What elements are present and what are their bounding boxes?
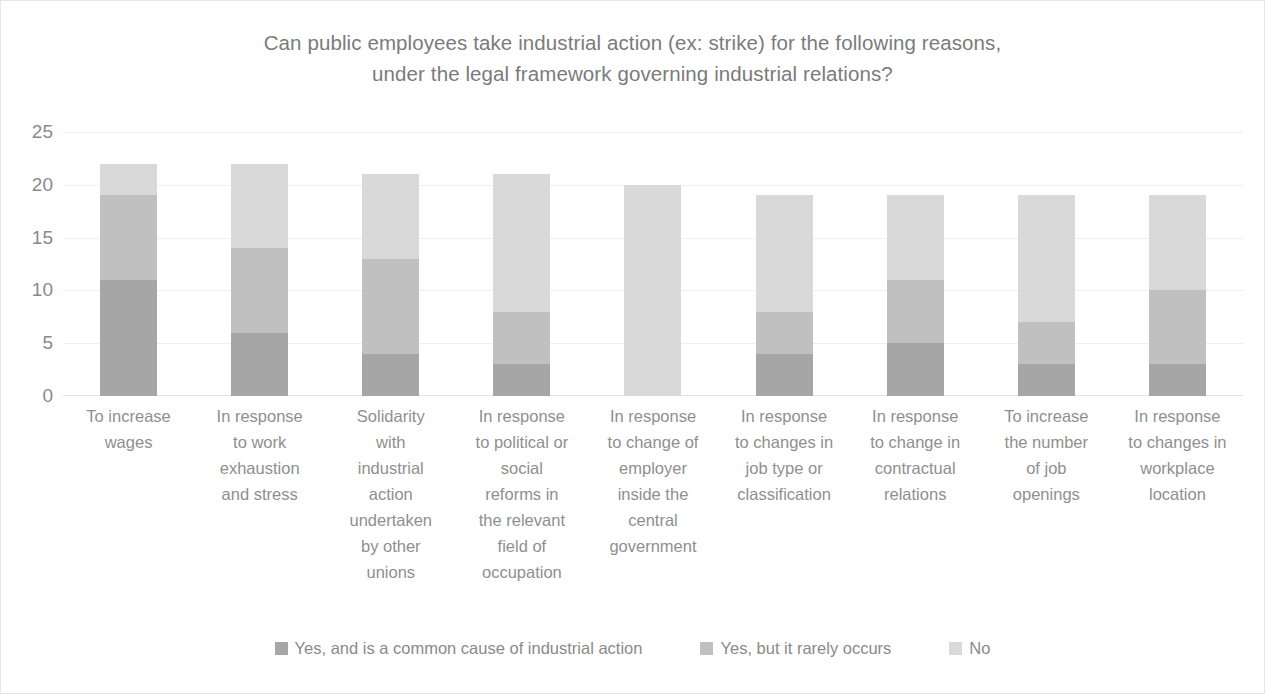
legend-label: No <box>969 639 990 657</box>
stacked-bar[interactable] <box>756 195 813 396</box>
bar-slot <box>194 132 325 396</box>
bar-segment[interactable] <box>493 174 550 311</box>
bar-segment[interactable] <box>1018 195 1075 322</box>
legend-label: Yes, and is a common cause of industrial… <box>295 639 643 657</box>
bar-slot <box>981 132 1112 396</box>
bar-segment[interactable] <box>1149 364 1206 396</box>
legend-label: Yes, but it rarely occurs <box>720 639 891 657</box>
bar-segment[interactable] <box>362 174 419 258</box>
x-axis-label: In response to change in contractual rel… <box>850 403 981 507</box>
bar-segment[interactable] <box>887 195 944 279</box>
bar-segment[interactable] <box>100 164 157 196</box>
bar-segment[interactable] <box>756 354 813 396</box>
bar-segment[interactable] <box>887 280 944 343</box>
bar-segment[interactable] <box>493 312 550 365</box>
x-axis-label: Solidarity with industrial action undert… <box>325 403 456 585</box>
bar-segment[interactable] <box>887 343 944 396</box>
stacked-bar[interactable] <box>100 164 157 396</box>
chart-container: Can public employees take industrial act… <box>0 0 1265 694</box>
legend-item[interactable]: Yes, but it rarely occurs <box>700 639 891 657</box>
bar-segment[interactable] <box>756 312 813 354</box>
x-axis-label: In response to change of employer inside… <box>587 403 718 559</box>
bar-slot <box>1112 132 1243 396</box>
stacked-bar[interactable] <box>887 195 944 396</box>
bar-segment[interactable] <box>362 259 419 354</box>
legend-item[interactable]: Yes, and is a common cause of industrial… <box>275 639 643 657</box>
bar-slot <box>325 132 456 396</box>
legend-item[interactable]: No <box>949 639 990 657</box>
plot-area: 2520151050 <box>63 132 1243 396</box>
legend-swatch-icon <box>275 642 288 655</box>
bar-series-group <box>63 132 1243 396</box>
bar-segment[interactable] <box>1149 290 1206 364</box>
bar-slot <box>63 132 194 396</box>
bar-segment[interactable] <box>756 195 813 311</box>
bar-segment[interactable] <box>231 248 288 332</box>
y-axis-tick-label: 25 <box>1 122 53 141</box>
y-axis-tick-label: 20 <box>1 175 53 194</box>
chart-legend: Yes, and is a common cause of industrial… <box>1 639 1264 657</box>
x-axis-label: In response to changes in job type or cl… <box>719 403 850 507</box>
stacked-bar[interactable] <box>1018 195 1075 396</box>
stacked-bar[interactable] <box>1149 195 1206 396</box>
y-axis-tick-label: 0 <box>1 386 53 405</box>
bar-segment[interactable] <box>1149 195 1206 290</box>
x-axis-label: In response to changes in workplace loca… <box>1112 403 1243 507</box>
y-axis-tick-label: 10 <box>1 280 53 299</box>
stacked-bar[interactable] <box>624 185 681 396</box>
bar-segment[interactable] <box>100 280 157 396</box>
bar-segment[interactable] <box>362 354 419 396</box>
bar-segment[interactable] <box>1018 364 1075 396</box>
bar-slot <box>850 132 981 396</box>
bar-segment[interactable] <box>1018 322 1075 364</box>
bar-segment[interactable] <box>493 364 550 396</box>
x-axis-label: In response to work exhaustion and stres… <box>194 403 325 507</box>
stacked-bar[interactable] <box>231 164 288 396</box>
x-axis-label: To increase wages <box>63 403 194 455</box>
bar-segment[interactable] <box>624 185 681 396</box>
bar-slot <box>719 132 850 396</box>
chart-title: Can public employees take industrial act… <box>1 27 1264 89</box>
stacked-bar[interactable] <box>493 174 550 396</box>
bar-segment[interactable] <box>231 333 288 396</box>
x-axis-label: In response to political or social refor… <box>456 403 587 585</box>
bar-slot <box>587 132 718 396</box>
bar-slot <box>456 132 587 396</box>
legend-swatch-icon <box>949 642 962 655</box>
bar-segment[interactable] <box>100 195 157 279</box>
legend-swatch-icon <box>700 642 713 655</box>
stacked-bar[interactable] <box>362 174 419 396</box>
x-axis-label: To increase the number of job openings <box>981 403 1112 507</box>
y-axis-tick-label: 5 <box>1 333 53 352</box>
y-axis-tick-label: 15 <box>1 228 53 247</box>
x-axis-labels: To increase wagesIn response to work exh… <box>63 403 1243 585</box>
bar-segment[interactable] <box>231 164 288 248</box>
